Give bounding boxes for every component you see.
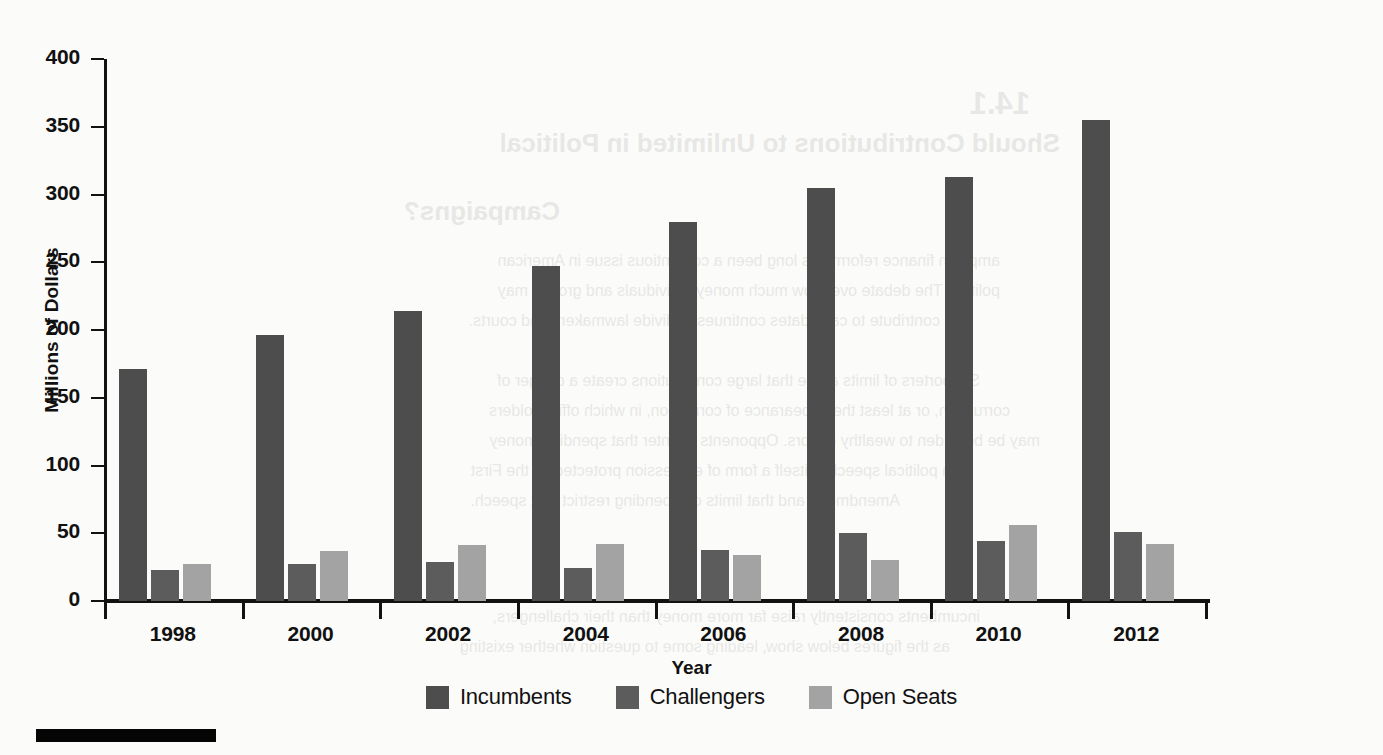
x-axis-tick-label: 2012	[1066, 622, 1206, 646]
chart-legend: IncumbentsChallengersOpen Seats	[0, 684, 1383, 710]
legend-item-label: Challengers	[650, 684, 765, 710]
y-axis-tick	[91, 261, 104, 263]
page-footer-rule	[36, 729, 216, 742]
x-axis-tick	[792, 603, 795, 619]
y-axis-tick	[91, 194, 104, 196]
bar	[151, 570, 179, 601]
bar	[183, 564, 211, 601]
y-axis-tick-label: 300	[10, 181, 80, 205]
y-axis-tick	[91, 58, 104, 60]
y-axis-tick-label: 100	[10, 452, 80, 476]
y-axis-tick	[91, 532, 104, 534]
bar	[977, 541, 1005, 601]
legend-item-label: Incumbents	[460, 684, 572, 710]
y-axis-tick-label: 350	[10, 113, 80, 137]
x-axis-tick	[1205, 603, 1208, 619]
bar	[733, 555, 761, 601]
y-axis-tick	[91, 329, 104, 331]
bar	[1082, 120, 1110, 601]
bar	[458, 545, 486, 601]
legend-item-label: Open Seats	[843, 684, 957, 710]
bar	[564, 568, 592, 601]
bar	[669, 222, 697, 601]
bar	[945, 177, 973, 601]
y-axis-tick	[91, 465, 104, 467]
x-axis-tick-label: 2008	[791, 622, 931, 646]
y-axis-tick-label: 0	[10, 587, 80, 611]
bar	[532, 266, 560, 601]
bar	[1009, 525, 1037, 601]
x-axis-tick-label: 1998	[103, 622, 243, 646]
x-axis-tick	[517, 603, 520, 619]
bar	[320, 551, 348, 601]
bar	[256, 335, 284, 601]
bar	[596, 544, 624, 601]
y-axis-tick	[91, 600, 104, 602]
legend-item: Incumbents	[426, 684, 572, 710]
x-axis-tick	[930, 603, 933, 619]
bar	[807, 188, 835, 601]
bar	[426, 562, 454, 601]
bar	[871, 560, 899, 601]
x-axis-tick	[1067, 603, 1070, 619]
x-axis-tick-label: 2004	[516, 622, 656, 646]
bar	[839, 533, 867, 601]
legend-swatch-icon	[426, 686, 449, 709]
x-axis-tick-label: 2006	[653, 622, 793, 646]
legend-item: Open Seats	[809, 684, 957, 710]
bar	[1146, 544, 1174, 601]
x-axis-tick	[104, 603, 107, 619]
legend-swatch-icon	[809, 686, 832, 709]
y-axis-tick-label: 50	[10, 519, 80, 543]
x-axis-title: Year	[0, 657, 1383, 679]
bar	[119, 369, 147, 601]
legend-item: Challengers	[616, 684, 765, 710]
y-axis-tick	[91, 397, 104, 399]
x-axis-tick	[655, 603, 658, 619]
x-axis-tick-label: 2000	[240, 622, 380, 646]
legend-swatch-icon	[616, 686, 639, 709]
y-axis-title: Millions of Dollars	[41, 247, 63, 413]
bar	[394, 311, 422, 601]
bar	[288, 564, 316, 601]
scanned-page-background: 14.1 Should Contributions to Unlimited i…	[0, 0, 1383, 755]
plot-area: Millions of Dollars	[104, 59, 1205, 601]
bar	[1114, 532, 1142, 601]
y-axis-tick	[91, 126, 104, 128]
x-axis-tick-label: 2002	[378, 622, 518, 646]
bar	[701, 550, 729, 601]
x-axis-tick-label: 2010	[929, 622, 1069, 646]
x-axis-tick	[379, 603, 382, 619]
x-axis-tick	[242, 603, 245, 619]
bar-chart: 050100150200250300350400 Millions of Dol…	[0, 0, 1383, 755]
y-axis-tick-label: 400	[10, 45, 80, 69]
